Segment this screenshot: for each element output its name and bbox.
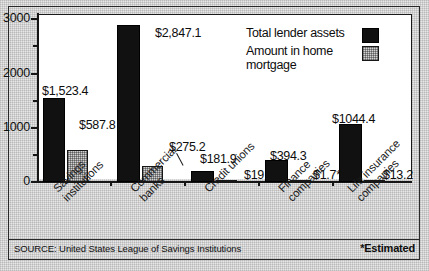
estimated-footnote: *Estimated [360, 242, 415, 254]
legend-label-amount-in-home-mortgage: Amount in home mortgage [246, 45, 358, 72]
bar-savings-institutions-assets [43, 98, 65, 182]
bar-commercial-banks-assets [117, 25, 140, 182]
value-label-life-insurance-assets: $1044.4 [332, 112, 375, 126]
y-axis-label-3000: 3000 [3, 11, 30, 25]
footer-divider [9, 239, 419, 240]
source-note: SOURCE: United States League of Savings … [14, 243, 241, 254]
y-axis-label-0: 0 [23, 174, 30, 188]
value-label-savings-assets: $1,523.4 [42, 84, 88, 98]
legend-swatch-amount-in-home-mortgage [362, 46, 379, 61]
chart-figure: 3000 2000 1000 0 $1,523.4 $587.8 $2,847.… [0, 0, 429, 271]
y-axis-label-1000: 1000 [3, 120, 30, 134]
value-label-commercial-assets: $2,847.1 [155, 26, 201, 40]
y-axis-label-2000: 2000 [3, 66, 30, 80]
legend: Total lender assets Amount in home mortg… [246, 27, 379, 74]
legend-label-total-lender-assets: Total lender assets [246, 27, 358, 41]
legend-item-total-lender-assets: Total lender assets [246, 27, 379, 43]
value-label-credit-unions-mortgage: $19 [244, 168, 264, 182]
value-label-savings-mortgage: $587.8 [79, 118, 115, 132]
legend-swatch-total-lender-assets [362, 28, 379, 43]
legend-item-amount-in-home-mortgage: Amount in home mortgage [246, 45, 379, 72]
